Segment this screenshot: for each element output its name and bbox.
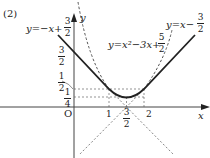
y-tick-three-halves: 32 [58,46,65,67]
frac-den: 2 [65,29,71,38]
equation-line-left: y=−x+ [26,24,62,34]
y-axis-arrow-icon [71,13,77,22]
frac-num: 1 [59,72,65,81]
frac-num: 3 [59,46,65,55]
frac-den: 4 [65,100,71,109]
equation-parabola: y=x²−3x+ [108,40,160,50]
equation-line-right-frac: 32 [197,13,204,34]
x-tick-2: 2 [146,109,152,119]
origin-label: O [64,109,72,119]
y-tick-quarter: 14 [64,88,71,109]
frac-num: 3 [65,17,71,26]
x-tick-three-halves: 32 [123,108,130,129]
equation-parabola-frac: 52 [158,33,165,54]
frac-den: 2 [159,45,165,54]
frac-num: 1 [65,88,71,97]
problem-label: (2) [3,9,17,19]
equation-line-left-frac: 32 [64,17,71,38]
frac-den: 2 [198,25,204,34]
x-axis-label: x [198,111,204,121]
frac-den: 2 [124,120,130,129]
line-left-extension [79,107,127,155]
graph-figure: (2) y x O y=−x+ 32 y=x²−3x+ 52 y=x− 32 3… [0,0,210,158]
frac-den: 2 [59,58,65,67]
x-tick-1: 1 [106,109,112,119]
equation-line-left-prefix: y=−x+ [26,23,62,34]
equation-line-right-prefix: y=x− [166,19,194,30]
equation-line-right: y=x− [166,20,194,30]
frac-num: 3 [124,108,130,117]
frac-num: 5 [159,33,165,42]
equation-parabola-prefix: y=x²−3x+ [108,39,160,50]
y-axis-label: y [80,13,86,23]
frac-num: 3 [198,13,204,22]
